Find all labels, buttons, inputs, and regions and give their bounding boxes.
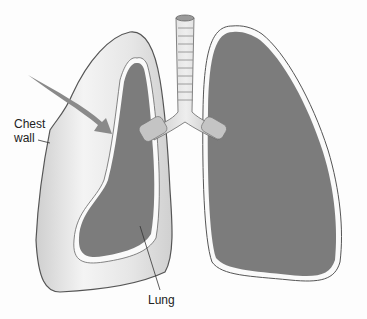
chest-wall-label: Chest wall	[14, 117, 45, 145]
lung-label: Lung	[148, 293, 175, 307]
lung-illustration	[0, 0, 367, 319]
lung-diagram: Chest wall Lung	[0, 0, 367, 319]
chest-wall-label-line2: wall	[14, 131, 45, 145]
chest-wall-label-line1: Chest	[14, 117, 45, 131]
right-lung	[208, 32, 336, 276]
